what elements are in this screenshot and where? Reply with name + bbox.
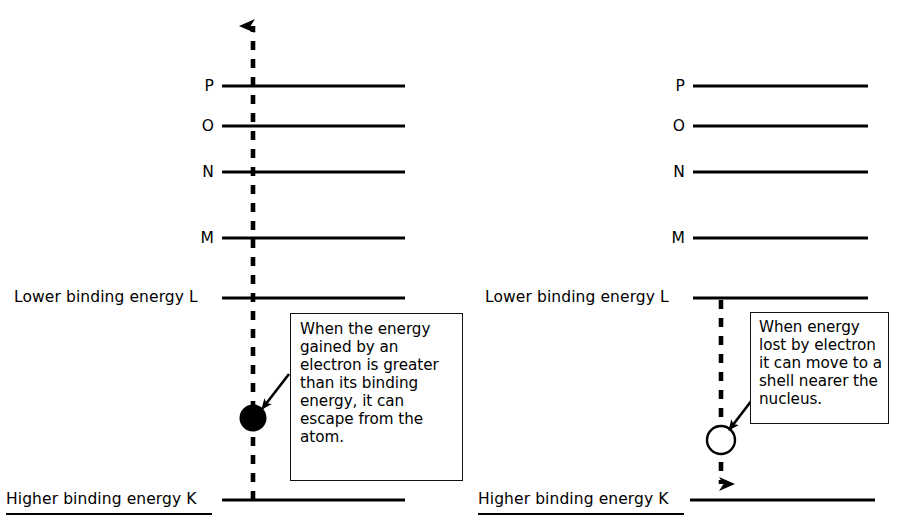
left-shell-label-N: N <box>190 165 214 181</box>
right-shell-label-M: M <box>659 231 685 247</box>
callout-text-electron-transition: When energy lost by electron it can move… <box>759 318 888 408</box>
diagram-canvas: P O N M Lower binding energy L Higher bi… <box>0 0 908 523</box>
callout-text-electron-escape: When the energy gained by an electron is… <box>300 320 462 446</box>
right-shell-label-P: P <box>661 79 685 95</box>
left-shell-label-L: Lower binding energy L <box>14 290 198 306</box>
left-shell-label-O: O <box>190 119 214 135</box>
left-shell-label-M: M <box>188 231 214 247</box>
right-electron-circle <box>707 426 735 454</box>
right-shell-label-K: Higher binding energy K <box>478 492 669 508</box>
left-shell-label-K: Higher binding energy K <box>6 492 197 508</box>
right-shell-label-L: Lower binding energy L <box>485 290 669 306</box>
left-callout-leader <box>262 374 289 409</box>
right-callout-leader <box>729 400 752 430</box>
left-shell-label-P: P <box>190 79 214 95</box>
right-shell-label-N: N <box>661 165 685 181</box>
callout-box-electron-transition: When energy lost by electron it can move… <box>750 312 889 424</box>
callout-box-electron-escape: When the energy gained by an electron is… <box>290 313 463 481</box>
right-shell-label-O: O <box>661 119 685 135</box>
